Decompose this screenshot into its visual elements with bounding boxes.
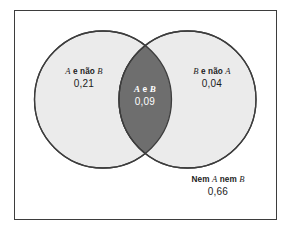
venn-diagram-figure: A e não B 0,21 A e B 0,09 B e não A 0,04…	[0, 0, 291, 230]
region-value-b-only: 0,04	[176, 78, 248, 90]
region-label-intersection-title: A e B	[114, 84, 176, 95]
region-label-a-only-title: A e não B	[44, 66, 124, 77]
set-name-a: A	[225, 66, 230, 76]
region-label-b-only: B e não A 0,04	[176, 66, 248, 89]
set-name-b: B	[150, 84, 156, 94]
connector-text-mid: nem	[217, 175, 239, 184]
set-name-b: B	[239, 174, 244, 184]
region-value-intersection: 0,09	[114, 96, 176, 108]
region-label-neither: Nem A nem B 0,66	[172, 174, 264, 197]
region-label-neither-title: Nem A nem B	[172, 174, 264, 185]
connector-text: e não	[199, 67, 226, 76]
region-label-b-only-title: B e não A	[176, 66, 248, 77]
connector-text-start: Nem	[191, 175, 211, 184]
set-name-b: B	[97, 66, 102, 76]
region-value-a-only: 0,21	[44, 78, 124, 90]
region-label-intersection: A e B 0,09	[114, 84, 176, 108]
connector-text: e não	[71, 67, 98, 76]
region-label-a-only: A e não B 0,21	[44, 66, 124, 89]
connector-text: e	[140, 84, 150, 94]
region-value-neither: 0,66	[172, 186, 264, 198]
